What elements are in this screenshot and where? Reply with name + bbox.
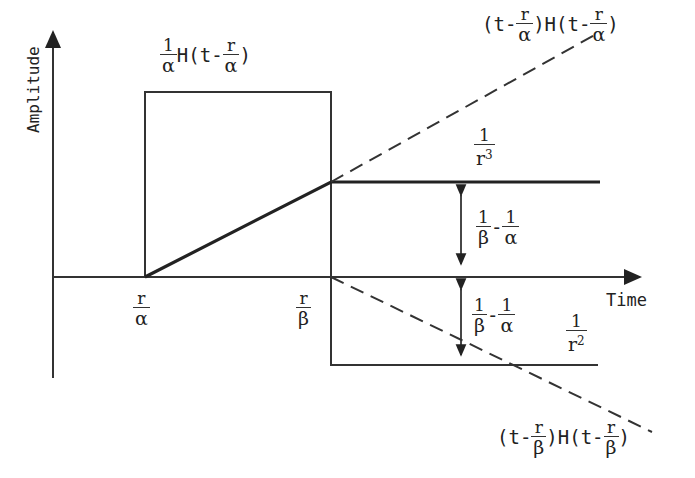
ramp-alpha-dashed [331,32,600,182]
tick-r-over-alpha: rα [133,289,150,328]
r3-label: 1r3 [474,126,495,168]
box-label: 1αH(t-rα) [160,36,251,75]
r2-label: 1r2 [566,312,587,354]
ramp-alpha-label: (t-rα)H(t-rα) [482,5,619,44]
y-axis-label: Amplitude [24,46,43,133]
lower-diff-label: 1β-1α [472,296,515,335]
r2-response [331,277,598,365]
upper-diff-label: 1β-1α [476,208,519,247]
diagram-canvas [0,0,695,478]
box-pulse [145,92,331,277]
ramp-beta-label: (t-rβ)H(t-rβ) [497,418,630,457]
tick-r-over-beta: rβ [296,289,311,328]
x-axis-label: Time [606,290,647,310]
r3-response [145,182,600,277]
